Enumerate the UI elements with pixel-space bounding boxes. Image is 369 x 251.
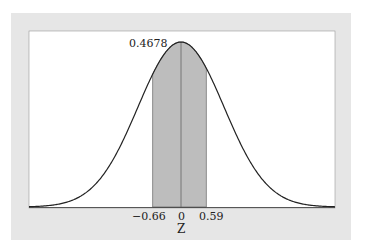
tick-label-center: 0	[178, 211, 185, 222]
x-axis-label: Z	[177, 223, 185, 235]
area-annotation: 0.4678	[129, 38, 168, 49]
tick-label-right: 0.59	[199, 211, 224, 222]
shaded-region	[153, 42, 207, 207]
tick-label-left: −0.66	[132, 211, 166, 222]
